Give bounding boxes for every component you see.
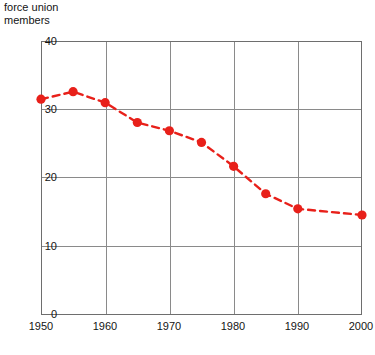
xtick-label-1970: 1970 bbox=[149, 320, 189, 332]
chart-title-line-2: members bbox=[4, 14, 58, 27]
gridline-x-1960 bbox=[106, 42, 107, 314]
ytick-label-30: 30 bbox=[27, 103, 57, 115]
chart-container: force union members 40 30 20 10 0 1950 1… bbox=[0, 0, 375, 355]
gridline-x-1990 bbox=[298, 42, 299, 314]
xtick-label-1950: 1950 bbox=[21, 320, 61, 332]
plot-area bbox=[41, 41, 362, 315]
xtick-label-1980: 1980 bbox=[213, 320, 253, 332]
ytick-label-20: 20 bbox=[27, 171, 57, 183]
gridline-y-30 bbox=[42, 109, 361, 110]
gridline-y-10 bbox=[42, 246, 361, 247]
ytick-label-10: 10 bbox=[27, 240, 57, 252]
xtick-label-2000: 2000 bbox=[341, 320, 375, 332]
xtick-label-1990: 1990 bbox=[277, 320, 317, 332]
gridline-x-1980 bbox=[234, 42, 235, 314]
gridline-x-1970 bbox=[170, 42, 171, 314]
gridline-y-20 bbox=[42, 177, 361, 178]
chart-title-line-1: force union bbox=[4, 1, 58, 14]
xtick-label-1960: 1960 bbox=[85, 320, 125, 332]
chart-title: force union members bbox=[4, 1, 58, 26]
ytick-label-40: 40 bbox=[27, 35, 57, 47]
ytick-label-0: 0 bbox=[27, 308, 57, 320]
